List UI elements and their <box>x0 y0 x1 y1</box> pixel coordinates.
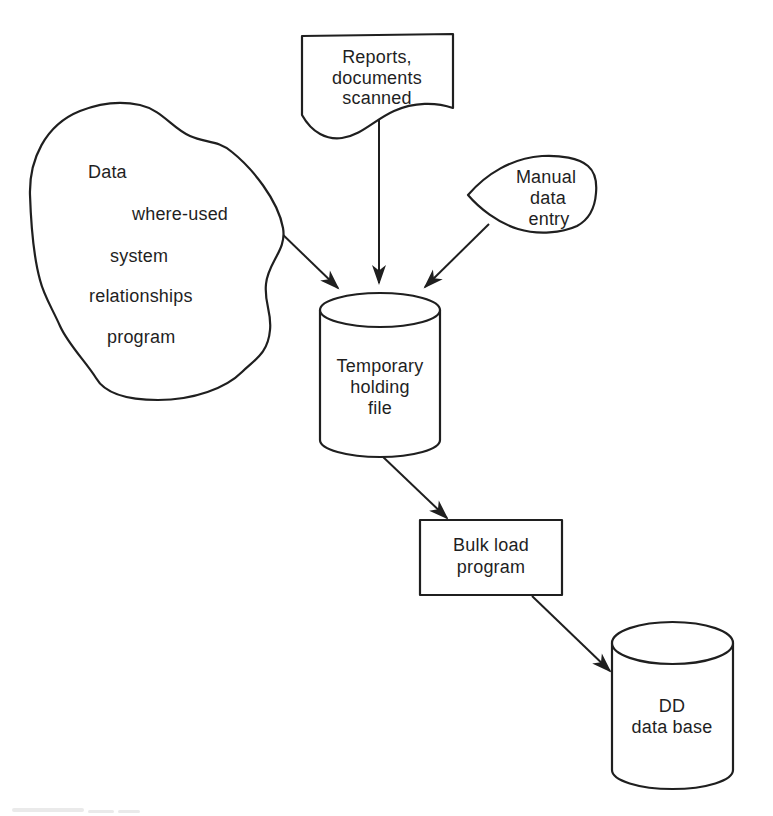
holding-file-label-line2: holding <box>350 377 409 397</box>
holding-file-label-line3: file <box>368 398 392 418</box>
cloud-label-where-used: where-used <box>131 204 228 224</box>
document-label-line3: scanned <box>342 88 411 108</box>
node-temporary-holding-file: Temporary holding file <box>320 293 440 457</box>
holding-file-cylinder-top <box>320 293 440 327</box>
scanned-figure-page: Data where-used system relationships pro… <box>0 0 773 816</box>
node-manual-entry: Manual data entry <box>468 156 596 233</box>
node-dd-data-base: DD data base <box>612 622 733 789</box>
node-data-cloud: Data where-used system relationships pro… <box>30 103 284 400</box>
arrow-bulk-load-to-dd-database <box>532 596 610 671</box>
holding-file-label-line1: Temporary <box>337 356 424 376</box>
cloud-label-system: system <box>110 246 168 266</box>
cloud-label-data: Data <box>88 162 128 182</box>
document-label-line2: documents <box>332 68 422 88</box>
manual-entry-label-line2: data <box>530 188 567 208</box>
cloud-label-relationships: relationships <box>89 286 193 306</box>
dd-database-cylinder-top <box>612 622 733 664</box>
arrow-holding-file-to-bulk-load <box>381 455 447 518</box>
node-reports-document: Reports, documents scanned <box>302 34 453 138</box>
dd-database-label-line1: DD <box>659 696 685 716</box>
arrow-manual-entry-to-holding-file <box>425 224 489 287</box>
arrow-cloud-to-holding-file <box>277 229 338 288</box>
dataflow-diagram: Data where-used system relationships pro… <box>0 0 773 816</box>
manual-entry-label-line1: Manual <box>516 167 576 187</box>
bulk-load-label-line2: program <box>457 557 525 577</box>
cloud-label-program: program <box>107 327 175 347</box>
node-bulk-load-program: Bulk load program <box>420 520 562 595</box>
manual-entry-label-line3: entry <box>528 209 569 229</box>
document-label-line1: Reports, <box>342 47 412 67</box>
bulk-load-label-line1: Bulk load <box>453 535 529 555</box>
dd-database-label-line2: data base <box>632 717 713 737</box>
cropped-caption-remnant <box>12 808 140 813</box>
